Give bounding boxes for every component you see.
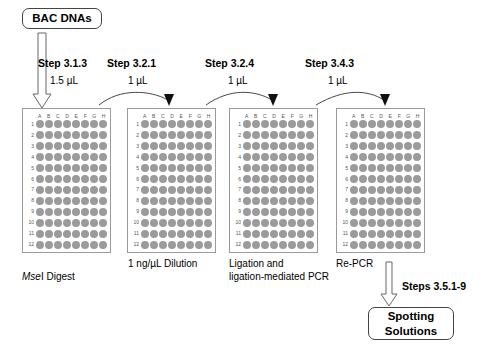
well-circle (359, 208, 367, 216)
well-H7 (204, 185, 213, 196)
well-circle (252, 197, 260, 205)
well-circle (377, 142, 385, 150)
column-header-e: E (72, 110, 81, 119)
well-circle (359, 186, 367, 194)
well-D10 (376, 217, 385, 228)
well-circle (350, 164, 358, 172)
well-circle (90, 230, 98, 238)
well-circle (81, 208, 89, 216)
well-circle (63, 153, 71, 161)
well-circle (279, 142, 287, 150)
well-circle (359, 230, 367, 238)
block-arrow-bac-to-plate1 (33, 33, 51, 108)
well-D3 (269, 141, 278, 152)
well-circle (306, 120, 314, 128)
well-E8 (386, 195, 395, 206)
well-circle (45, 230, 53, 238)
well-H1 (99, 119, 108, 130)
well-circle (261, 197, 269, 205)
well-circle (72, 197, 80, 205)
well-circle (279, 153, 287, 161)
well-circle (386, 153, 394, 161)
well-circle (261, 208, 269, 216)
well-H7 (413, 185, 422, 196)
well-C9 (367, 206, 376, 217)
row-header-3: 3 (231, 141, 242, 152)
well-circle (36, 197, 44, 205)
well-circle (141, 241, 149, 249)
well-F5 (81, 163, 90, 174)
plate-re-pcr: ABCDEFGH123456789101112 (336, 108, 425, 253)
well-F12 (81, 239, 90, 250)
well-circle (54, 164, 62, 172)
well-E7 (386, 185, 395, 196)
well-circle (99, 241, 107, 249)
well-circle (204, 219, 212, 227)
well-circle (306, 175, 314, 183)
plate-caption-4: Re-PCR (336, 258, 373, 271)
well-D5 (376, 163, 385, 174)
well-D7 (376, 185, 385, 196)
well-circle (159, 164, 167, 172)
well-circle (168, 208, 176, 216)
well-circle (306, 241, 314, 249)
well-circle (243, 120, 251, 128)
well-circle (279, 131, 287, 139)
well-B11 (358, 228, 367, 239)
well-G4 (90, 152, 99, 163)
well-A6 (242, 174, 251, 185)
well-D8 (269, 195, 278, 206)
well-circle (395, 164, 403, 172)
well-circle (159, 186, 167, 194)
well-C12 (53, 239, 62, 250)
well-C11 (367, 228, 376, 239)
well-F10 (395, 217, 404, 228)
well-E11 (279, 228, 288, 239)
well-circle (377, 131, 385, 139)
well-circle (404, 186, 412, 194)
well-B8 (251, 195, 260, 206)
well-circle (63, 164, 71, 172)
well-circle (413, 120, 421, 128)
well-D8 (376, 195, 385, 206)
well-H10 (99, 217, 108, 228)
well-B6 (358, 174, 367, 185)
well-circle (36, 120, 44, 128)
well-circle (168, 197, 176, 205)
well-D10 (269, 217, 278, 228)
row-header-5: 5 (129, 163, 140, 174)
well-G12 (90, 239, 99, 250)
well-circle (279, 208, 287, 216)
row-header-11: 11 (231, 228, 242, 239)
well-A8 (140, 195, 149, 206)
well-B12 (358, 239, 367, 250)
well-circle (54, 186, 62, 194)
well-circle (63, 175, 71, 183)
well-E1 (386, 119, 395, 130)
well-F10 (288, 217, 297, 228)
well-circle (45, 186, 53, 194)
well-F7 (81, 185, 90, 196)
well-circle (81, 131, 89, 139)
well-circle (141, 153, 149, 161)
well-circle (99, 153, 107, 161)
well-E3 (72, 141, 81, 152)
row-header-12: 12 (24, 239, 35, 250)
well-A3 (242, 141, 251, 152)
well-circle (177, 120, 185, 128)
well-circle (368, 175, 376, 183)
well-circle (72, 186, 80, 194)
well-B8 (358, 195, 367, 206)
well-H5 (204, 163, 213, 174)
well-circle (359, 219, 367, 227)
well-G11 (90, 228, 99, 239)
well-circle (395, 175, 403, 183)
well-E6 (386, 174, 395, 185)
well-B7 (251, 185, 260, 196)
grid-corner (129, 110, 140, 119)
well-circle (243, 208, 251, 216)
well-circle (63, 186, 71, 194)
well-circle (243, 219, 251, 227)
well-C3 (260, 141, 269, 152)
well-circle (270, 142, 278, 150)
